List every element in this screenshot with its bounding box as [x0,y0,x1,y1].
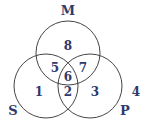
region-label-2: 2 [64,85,72,99]
region-label-6: 6 [64,70,72,84]
set-label-s: S [8,103,17,118]
region-label-8: 8 [64,39,72,53]
region-label-1: 1 [35,85,43,99]
region-label-7: 7 [79,61,87,75]
region-label-4: 4 [132,85,140,99]
set-label-p: P [120,103,130,118]
venn-diagram: MSP12345678 [0,0,147,120]
region-label-3: 3 [91,85,99,99]
set-label-m: M [61,3,75,18]
region-label-5: 5 [51,61,59,75]
